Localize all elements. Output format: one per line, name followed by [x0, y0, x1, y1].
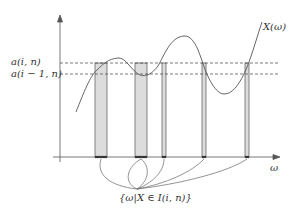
interval-bar-1 — [95, 63, 107, 157]
interval-bars — [95, 63, 249, 157]
level-set-diagram — [0, 0, 293, 215]
x-axis-label: ω — [270, 163, 278, 173]
interval-bar-4 — [202, 63, 206, 157]
x-axis-arrow-icon — [273, 155, 280, 160]
interval-bar-3 — [162, 63, 166, 157]
connector-curves — [100, 159, 247, 189]
level-label-upper: a(i, n) — [11, 57, 41, 67]
level-label-lower: a(i − 1, n) — [11, 69, 62, 79]
set-label: {ω|X ∈ I(i, n)} — [119, 193, 192, 203]
interval-bar-2 — [135, 63, 147, 157]
y-axis-arrow-icon — [58, 15, 63, 22]
curve-label: X(ω) — [263, 22, 286, 32]
interval-bar-5 — [245, 63, 249, 157]
